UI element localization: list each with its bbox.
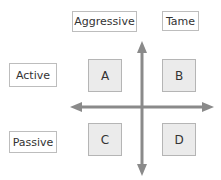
row-label-passive: Passive [9, 131, 57, 153]
quadrant-c: C [88, 123, 122, 156]
column-label-aggressive: Aggressive [72, 11, 137, 32]
quadrant-a: A [88, 59, 122, 92]
column-label-tame: Tame [162, 11, 199, 31]
quadrant-d: D [162, 123, 196, 156]
quadrant-b: B [162, 59, 196, 92]
row-label-active: Active [9, 63, 57, 87]
